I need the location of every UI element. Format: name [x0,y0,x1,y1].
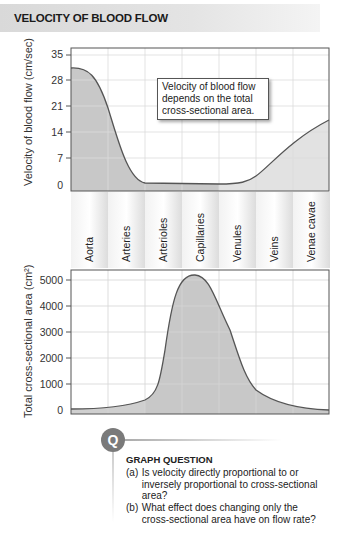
question-icon: Q [101,428,125,452]
category-venae-cavae: Venae cavae [305,201,317,262]
category-arteries: Arteries [120,226,132,262]
question-item-b: (b) What effect does changing only the c… [126,502,326,525]
y-tick: 35 [27,48,63,60]
y-tick: 3000 [27,326,63,338]
y-tick: 2000 [27,352,63,364]
category-venules: Venules [231,225,243,262]
category-veins: Veins [268,236,280,262]
category-capillaries: Capillaries [194,213,206,262]
question-side-rule [112,452,114,522]
y-tick: 7 [27,152,63,164]
question-text: What effect does changing only the cross… [142,502,322,525]
question-text: Is velocity directly proportional to or … [142,467,322,502]
y-tick: 0 [27,404,63,416]
y-tick: 14 [27,126,63,138]
area-y-axis-label: Total cross-sectional area (cm²) [22,265,34,418]
y-tick: 21 [27,100,63,112]
question-item-a: (a) Is velocity directly proportional to… [126,467,326,502]
category-arterioles: Arterioles [157,218,169,262]
question-divider [122,439,282,441]
question-label: (a) [126,467,139,479]
category-aorta: Aorta [83,237,95,262]
y-tick: 5000 [27,274,63,286]
y-tick: 1000 [27,378,63,390]
y-tick: 4000 [27,300,63,312]
y-tick: 0 [27,179,63,191]
question-label: (b) [126,502,139,514]
annotation-callout: Velocity of blood flow depends on the to… [157,78,269,120]
question-heading: GRAPH QUESTION [126,454,213,465]
y-tick: 28 [27,74,63,86]
cross-section-chart [66,270,329,414]
